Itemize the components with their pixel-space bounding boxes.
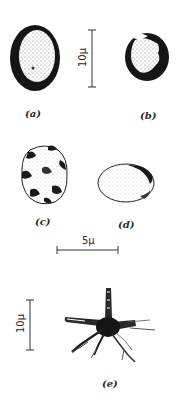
scale-text-top: 10μ [77, 48, 88, 68]
scale-text-middle: 5μ [82, 235, 95, 246]
panel-label-c: (c) [35, 216, 51, 227]
scale-bar-bottom [26, 300, 34, 350]
panel-label-e: (e) [102, 378, 118, 389]
cell-a [10, 25, 60, 91]
panel-label-a: (a) [25, 108, 41, 119]
scale-bar-top [88, 30, 96, 87]
cell-e [65, 288, 155, 362]
cell-b [125, 33, 169, 81]
scale-bar-middle [57, 246, 118, 254]
panel-label-d: (d) [118, 219, 134, 230]
panel-label-b: (b) [140, 110, 156, 121]
cell-d [98, 164, 154, 202]
figure-canvas [0, 0, 187, 405]
cell-c [22, 145, 67, 203]
scale-text-bottom: 10μ [15, 314, 26, 334]
